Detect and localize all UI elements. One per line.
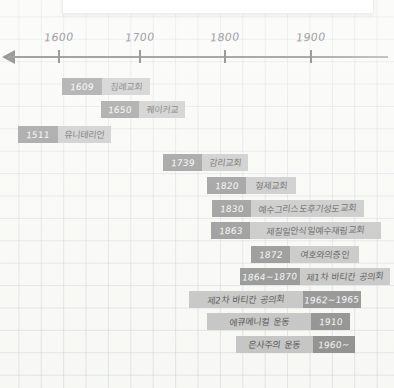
event-date-text: 1650 bbox=[108, 104, 133, 114]
event-label-block: 여호와의증인 bbox=[290, 246, 359, 263]
event-label-text: 침례교회 bbox=[109, 80, 143, 94]
event-label-block: 감리교회 bbox=[202, 154, 248, 171]
event-label-block: 예수그리스도후기성도교회 bbox=[251, 200, 364, 217]
event-date-block: 1960~ bbox=[313, 336, 355, 353]
event-label-text: 은사주의 운동 bbox=[248, 338, 302, 352]
event-label-block: 은사주의 운동 bbox=[236, 336, 313, 353]
timeline-event-bar[interactable]: 1864~1870제1차 바티칸 공의회 bbox=[240, 268, 388, 285]
event-date-text: 1960~ bbox=[318, 339, 351, 350]
timeline-event-bar[interactable]: 1960~은사주의 운동 bbox=[236, 336, 355, 353]
event-date-text: 1609 bbox=[70, 81, 95, 91]
event-date-block: 1820 bbox=[207, 177, 246, 194]
event-date-block: 1872 bbox=[251, 246, 290, 263]
event-date-block: 1962~1965 bbox=[303, 291, 361, 308]
event-label-text: 제칠일안식일예수재림교회 bbox=[266, 223, 366, 238]
event-date-block: 1739 bbox=[163, 154, 202, 171]
axis-tick-label: 1700 bbox=[124, 30, 155, 44]
event-label-text: 형제교회 bbox=[254, 179, 288, 193]
source-caption-card: ( 자료 출처 : 한국 기독교 총람(교회사, 2010) bbox=[62, 0, 374, 14]
event-date-block: 1609 bbox=[62, 78, 102, 95]
event-label-text: 여호와의증인 bbox=[299, 248, 350, 262]
event-label-text: 퀘이커교 bbox=[145, 103, 179, 117]
timeline-event-bar[interactable]: 1872여호와의증인 bbox=[251, 246, 359, 263]
axis-tick-1800 bbox=[224, 50, 226, 63]
event-label-text: 에큐메니컬 운동 bbox=[228, 314, 290, 328]
event-date-block: 1830 bbox=[212, 200, 251, 217]
event-label-text: 예수그리스도후기성도교회 bbox=[258, 201, 358, 216]
event-date-text: 1910 bbox=[318, 316, 343, 326]
event-date-text: 1864~1870 bbox=[242, 271, 298, 282]
timeline-event-bar[interactable]: 1910에큐메니컬 운동 bbox=[207, 313, 350, 330]
timeline-axis bbox=[8, 56, 388, 58]
timeline-event-bar[interactable]: 1739감리교회 bbox=[163, 154, 248, 171]
event-label-block: 제2차 바티칸 공의회 bbox=[189, 291, 303, 308]
event-date-block: 1863 bbox=[211, 222, 250, 239]
event-date-text: 1962~1965 bbox=[304, 294, 360, 305]
event-label-text: 유니테리언 bbox=[63, 128, 105, 142]
event-date-block: 1864~1870 bbox=[240, 268, 300, 285]
event-date-text: 1511 bbox=[26, 129, 51, 139]
event-label-text: 감리교회 bbox=[208, 156, 242, 170]
event-label-block: 침례교회 bbox=[102, 78, 150, 95]
timeline-event-bar[interactable]: 1962~1965제2차 바티칸 공의회 bbox=[189, 291, 361, 308]
axis-tick-1700 bbox=[139, 50, 141, 63]
timeline-event-bar[interactable]: 1863제칠일안식일예수재림교회 bbox=[211, 222, 381, 239]
timeline-event-bar[interactable]: 1830예수그리스도후기성도교회 bbox=[212, 200, 364, 217]
event-date-text: 1863 bbox=[218, 225, 243, 235]
timeline-event-bar[interactable]: 1511유니테리언 bbox=[18, 126, 110, 143]
axis-tick-label: 1900 bbox=[295, 30, 326, 44]
axis-tick-label: 1800 bbox=[209, 30, 240, 44]
event-date-block: 1910 bbox=[311, 313, 350, 330]
event-label-text: 제2차 바티칸 공의회 bbox=[206, 292, 285, 306]
axis-tick-label: 1600 bbox=[43, 30, 74, 44]
timeline-event-bar[interactable]: 1609침례교회 bbox=[62, 78, 150, 95]
event-date-text: 1820 bbox=[214, 180, 239, 190]
timeline-event-bar[interactable]: 1650퀘이커교 bbox=[101, 101, 185, 118]
event-label-block: 제1차 바티칸 공의회 bbox=[300, 268, 390, 285]
event-label-block: 제칠일안식일예수재림교회 bbox=[250, 222, 381, 239]
event-label-block: 유니테리언 bbox=[58, 126, 111, 143]
event-label-block: 에큐메니컬 운동 bbox=[207, 313, 311, 330]
event-date-text: 1739 bbox=[170, 157, 195, 167]
event-date-block: 1511 bbox=[18, 126, 58, 143]
timeline-event-bar[interactable]: 1820형제교회 bbox=[207, 177, 296, 194]
event-date-text: 1872 bbox=[258, 249, 283, 259]
event-label-block: 형제교회 bbox=[246, 177, 296, 194]
event-label-text: 제1차 바티칸 공의회 bbox=[305, 269, 384, 283]
axis-tick-1600 bbox=[58, 50, 60, 63]
event-label-block: 퀘이커교 bbox=[139, 101, 185, 118]
axis-tick-1900 bbox=[310, 50, 312, 63]
event-date-text: 1830 bbox=[219, 203, 244, 213]
event-date-block: 1650 bbox=[101, 101, 139, 118]
